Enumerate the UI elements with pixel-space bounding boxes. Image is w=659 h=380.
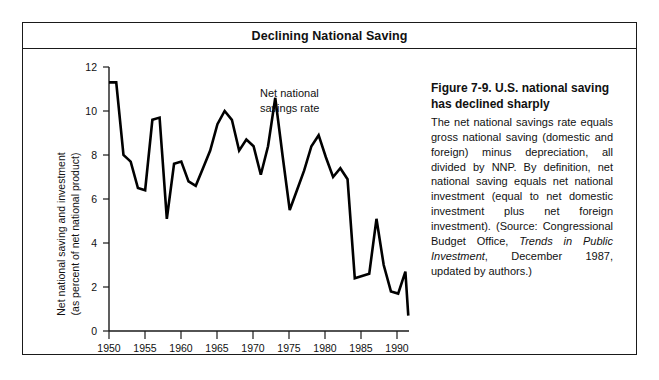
y-tick-6: 6 <box>91 193 97 205</box>
page-title: Declining National Saving <box>252 29 408 43</box>
chart-plot-area: Net national saving and investment (as p… <box>23 49 423 354</box>
x-axis-title-wrap: Year <box>23 324 423 354</box>
y-axis-label-line2: (as percent of net national product) <box>69 153 81 316</box>
y-tick-8: 8 <box>91 149 97 161</box>
y-axis-ticks <box>103 67 109 331</box>
figure-container: Declining National Saving Net national s… <box>22 22 637 355</box>
y-axis-label-line1: Net national saving and investment <box>55 152 67 316</box>
figure-title-bar: Declining National Saving <box>23 23 636 49</box>
y-tick-10: 10 <box>85 105 97 117</box>
series-annotation-line2: savings rate <box>260 102 319 114</box>
y-tick-2: 2 <box>91 281 97 293</box>
y-tick-4: 4 <box>91 237 97 249</box>
caption-heading: Figure 7-9. U.S. national saving has dec… <box>431 81 613 113</box>
y-tick-12: 12 <box>85 61 97 73</box>
line-chart: Net national saving and investment (as p… <box>23 49 423 354</box>
y-axis-tick-labels: 12 10 8 6 4 2 0 <box>85 61 97 337</box>
caption-body: The net national savings rate equals gro… <box>431 115 613 279</box>
series-annotation-line1: Net national <box>260 87 319 99</box>
figure-caption: Figure 7-9. U.S. national saving has dec… <box>431 81 613 279</box>
caption-body-part1: The net national savings rate equals gro… <box>431 116 613 248</box>
series-net-national-savings-rate <box>109 82 408 315</box>
